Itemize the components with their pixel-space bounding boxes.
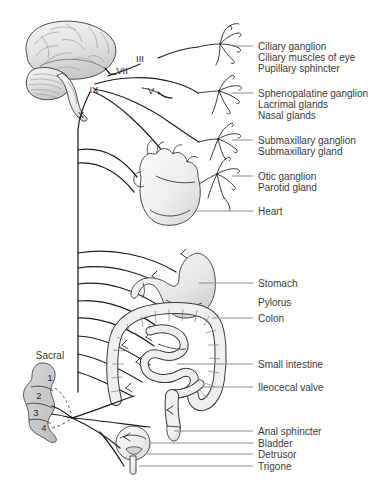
nerve-label-x: X — [78, 109, 85, 120]
rectum-organ — [167, 396, 180, 441]
bladder-shape — [116, 426, 150, 460]
sacral-segment-2: 2 — [36, 390, 41, 401]
callout-sphenopalatine-ganglion: Sphenopalatine ganglion — [258, 88, 368, 99]
urethra-shape — [130, 456, 136, 474]
callout-small-intestine: Small intestine — [258, 359, 323, 370]
nerve-label-vii: VII — [116, 65, 128, 76]
sacral-segment-4: 4 — [41, 422, 46, 433]
callout-bladder: Bladder — [258, 438, 293, 449]
callout-otic-ganglion: Otic ganglion — [258, 171, 316, 182]
anatomy-diagram: III VII IX V X Sacral 1 2 3 4 — [0, 0, 392, 501]
callout-ciliary-ganglion: Ciliary ganglion — [258, 41, 326, 52]
sacral-segment-1: 1 — [47, 372, 52, 383]
callout-ileocecal-valve: Ileocecal valve — [258, 382, 324, 393]
callout-pupillary-sphincter: Pupillary sphincter — [258, 63, 340, 74]
callout-heart: Heart — [258, 206, 283, 217]
callout-submaxillary-ganglion: Submaxillary ganglion — [258, 135, 356, 146]
callout-trigone: Trigone — [258, 461, 292, 472]
sacral-segment-3: 3 — [33, 407, 38, 418]
nerve-label-ix: IX — [90, 84, 100, 95]
callout-stomach: Stomach — [258, 278, 297, 289]
callout-submaxillary-gland: Submaxillary gland — [258, 146, 343, 157]
figure-canvas: III VII IX V X Sacral 1 2 3 4 — [0, 0, 392, 501]
callout-pylorus: Pylorus — [258, 297, 291, 308]
nerve-label-v: V — [148, 85, 155, 96]
callout-colon: Colon — [258, 313, 284, 324]
callout-parotid-gland: Parotid gland — [258, 182, 317, 193]
callout-ciliary-muscles-of-eye: Ciliary muscles of eye — [258, 52, 356, 63]
callout-detrusor: Detrusor — [258, 449, 297, 460]
rectum-lumen — [172, 396, 174, 427]
callout-nasal-glands: Nasal glands — [258, 110, 316, 121]
callout-anal-sphincter: Anal sphincter — [258, 426, 322, 437]
callout-lacrimal-glands: Lacrimal glands — [258, 99, 328, 110]
sacral-region-label: Sacral — [36, 350, 64, 361]
nerve-label-iii: III — [136, 53, 144, 64]
